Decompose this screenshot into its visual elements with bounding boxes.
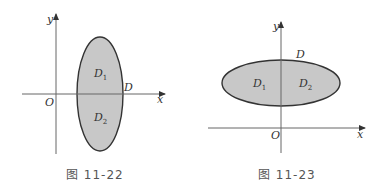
caption-figure-11-22: 图 11-22 <box>66 165 124 182</box>
x-axis-label: x <box>357 128 364 141</box>
figures-canvas: y x O D D1 D2 y x O D D1 D2 <box>0 0 385 191</box>
caption-figure-11-23: 图 11-23 <box>258 165 316 182</box>
boundary-label: D <box>295 48 305 61</box>
figure-11-23: y x O D D1 D2 <box>208 20 365 153</box>
y-axis-label: y <box>46 13 54 26</box>
boundary-label: D <box>123 81 133 94</box>
figure-11-22: y x O D D1 D2 <box>22 13 165 154</box>
y-axis-label: y <box>272 20 280 33</box>
x-axis-label: x <box>157 93 164 106</box>
origin-label: O <box>45 96 54 109</box>
origin-label: O <box>271 129 280 142</box>
